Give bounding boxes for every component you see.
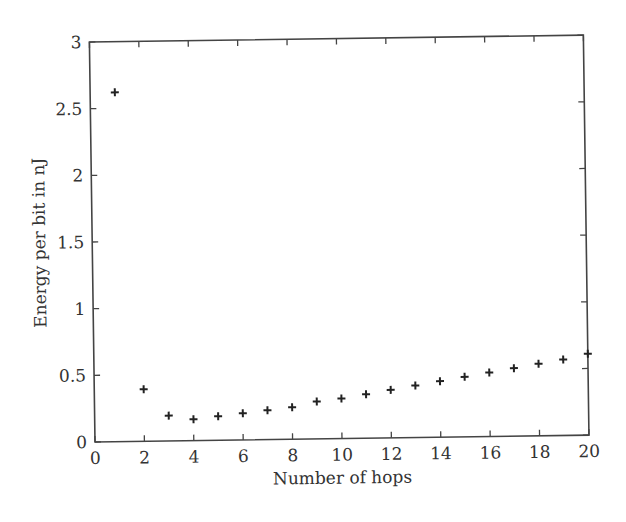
data-point-plus-marker	[239, 409, 247, 417]
data-point-plus-marker	[510, 364, 518, 372]
x-axis-label: Number of hops	[273, 467, 412, 489]
data-point-plus-marker	[559, 355, 567, 363]
y-tick-label: 2	[72, 165, 83, 185]
y-tick-labels: 00.511.522.53	[54, 32, 87, 452]
data-point-plus-marker	[485, 368, 493, 376]
data-point-plus-marker	[214, 412, 222, 420]
y-tick-label: 1	[74, 299, 85, 319]
plot-frame	[89, 35, 589, 442]
data-point-plus-marker	[534, 360, 542, 368]
data-point-plus-marker	[461, 373, 469, 381]
data-point-plus-marker	[362, 390, 370, 398]
y-tick-label: 0	[76, 432, 87, 452]
chart-body: 02468101214161820 00.511.522.53 Number o…	[26, 25, 600, 492]
x-tick-labels: 02468101214161820	[90, 441, 600, 468]
y-tick-label: 1.5	[57, 232, 84, 252]
data-point-plus-marker	[337, 394, 345, 402]
x-tick-label: 16	[479, 442, 501, 462]
x-tick-label: 14	[430, 443, 452, 463]
x-tick-label: 4	[188, 447, 199, 467]
x-tick-label: 12	[381, 444, 403, 464]
axis-ticks	[89, 35, 589, 442]
y-tick-label: 3	[70, 32, 81, 52]
y-axis-label: Energy per bit in nJ	[28, 157, 50, 327]
x-tick-label: 8	[287, 445, 298, 465]
x-tick-label: 18	[529, 442, 551, 462]
data-point-plus-marker	[584, 350, 592, 358]
data-point-plus-marker	[189, 415, 197, 423]
x-tick-label: 6	[238, 446, 249, 466]
data-point-plus-marker	[263, 406, 271, 414]
y-tick-label: 2.5	[55, 99, 82, 119]
data-point-plus-marker	[111, 88, 119, 96]
data-point-plus-marker	[313, 398, 321, 406]
x-tick-label: 10	[331, 444, 353, 464]
data-point-plus-marker	[288, 403, 296, 411]
scatter-chart: 02468101214161820 00.511.522.53 Number o…	[0, 0, 626, 522]
x-tick-label: 2	[139, 447, 150, 467]
y-tick-label: 0.5	[59, 365, 86, 385]
data-point-plus-marker	[165, 412, 173, 420]
data-point-plus-marker	[436, 377, 444, 385]
data-point-plus-marker	[387, 386, 395, 394]
x-tick-label: 20	[578, 441, 600, 461]
x-tick-label: 0	[90, 448, 101, 468]
data-points	[111, 82, 593, 425]
data-point-plus-marker	[411, 381, 419, 389]
data-point-plus-marker	[140, 385, 148, 393]
